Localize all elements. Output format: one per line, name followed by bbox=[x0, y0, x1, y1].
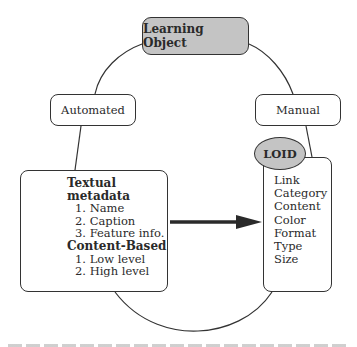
automated-label: Automated bbox=[61, 103, 125, 117]
manual-label: Manual bbox=[276, 103, 320, 117]
list-item: Size bbox=[274, 253, 331, 266]
list-item: 1. Name bbox=[75, 202, 167, 215]
manual-node: Manual bbox=[255, 94, 341, 126]
figure-caption-cropped bbox=[8, 341, 348, 347]
section-heading-textual: Textual metadata bbox=[67, 177, 167, 202]
manual-metadata-panel: Link Category Content Color Format Type … bbox=[263, 157, 332, 292]
connector-root-automated bbox=[95, 44, 142, 94]
connector-bottom-arc bbox=[115, 292, 272, 331]
list-item: 2. High level bbox=[75, 265, 167, 278]
loid-badge: LOID bbox=[254, 137, 306, 170]
learning-object-node: Learning Object bbox=[142, 17, 249, 55]
connector-root-manual bbox=[249, 44, 293, 94]
arrow-head-icon bbox=[236, 215, 262, 229]
learning-object-label: Learning Object bbox=[143, 22, 248, 50]
connector-automated-panel bbox=[75, 126, 81, 170]
list-item: Color bbox=[274, 214, 331, 227]
loid-label: LOID bbox=[263, 147, 296, 161]
connector-manual-panel bbox=[306, 126, 312, 157]
list-item: Content bbox=[274, 200, 331, 213]
section-heading-content: Content-Based bbox=[67, 240, 167, 253]
automated-metadata-panel: Textual metadata 1. Name 2. Caption 3. F… bbox=[20, 170, 168, 292]
automated-node: Automated bbox=[50, 94, 136, 126]
